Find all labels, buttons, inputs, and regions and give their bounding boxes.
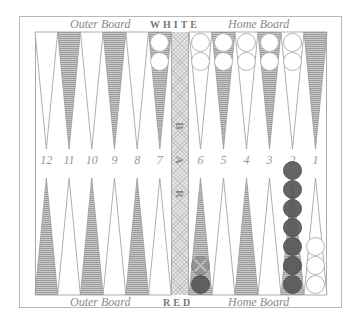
bottom-point-8[interactable] [126,178,149,295]
bottom-point-5[interactable] [212,178,235,295]
red-checker[interactable] [191,256,210,275]
bar-letter-r: R [174,190,186,198]
top-point-10[interactable] [80,32,103,149]
point-number-9: 9 [103,153,125,168]
top-point-9[interactable] [103,32,126,149]
point-number-1: 1 [305,153,327,168]
bottom-point-7[interactable] [149,178,172,295]
top-point-1[interactable] [304,32,327,149]
bottom-point-11[interactable] [58,178,81,295]
white-checker[interactable] [191,52,210,71]
point-number-8: 8 [126,153,148,168]
bottom-point-10[interactable] [80,178,103,295]
point-number-11: 11 [58,153,80,168]
red-checker[interactable] [283,218,302,237]
white-checker[interactable] [306,256,325,275]
top-point-8[interactable] [126,32,149,149]
white-checker[interactable] [306,275,325,294]
red-checker[interactable] [283,180,302,199]
white-checker[interactable] [283,52,302,71]
point-number-5: 5 [213,153,235,168]
bar-letter-a: A [174,156,186,164]
white-checker[interactable] [214,52,233,71]
top-point-11[interactable] [58,32,81,149]
point-number-7: 7 [149,153,171,168]
bottom-point-3[interactable] [258,178,281,295]
white-checker[interactable] [260,52,279,71]
bottom-point-4[interactable] [235,178,258,295]
red-checker[interactable] [283,199,302,218]
white-checker[interactable] [237,52,256,71]
red-checker[interactable] [191,275,210,294]
white-checker[interactable] [214,33,233,52]
point-number-12: 12 [35,153,57,168]
point-number-6: 6 [190,153,212,168]
red-checker[interactable] [283,161,302,180]
bottom-point-9[interactable] [103,178,126,295]
bar-label: B A R [171,120,189,200]
top-point-12[interactable] [35,32,58,149]
bar-letter-b: B [174,122,186,129]
point-number-10: 10 [81,153,103,168]
white-checker[interactable] [283,33,302,52]
red-checker[interactable] [283,237,302,256]
white-checker[interactable] [237,33,256,52]
red-checker[interactable] [283,256,302,275]
white-checker[interactable] [260,33,279,52]
red-checker[interactable] [283,275,302,294]
bottom-point-12[interactable] [35,178,58,295]
white-checker[interactable] [306,237,325,256]
white-checker[interactable] [191,33,210,52]
point-number-3: 3 [259,153,281,168]
point-number-4: 4 [236,153,258,168]
